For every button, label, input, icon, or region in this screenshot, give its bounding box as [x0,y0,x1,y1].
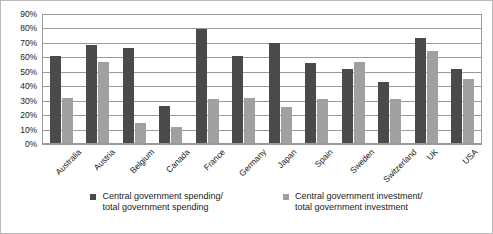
bar [159,106,170,143]
bar [244,98,255,144]
x-axis-tick-label: UK [425,147,440,162]
bar [354,62,365,143]
x-axis-label-slot: France [189,145,226,191]
bar [98,62,109,143]
bar [62,98,73,144]
bar [305,63,316,143]
bar-group [445,15,482,143]
y-axis-tick-label: 30% [20,96,37,106]
x-axis-label-slot: Canada [152,145,189,191]
bar-group [299,15,336,143]
bar [390,99,401,143]
y-axis-tick-label: 10% [20,125,37,135]
legend-label: Central government investment/ total gov… [295,191,423,213]
bar-group [262,15,299,143]
y-axis-tick-label: 90% [20,9,37,19]
bar [281,107,292,143]
bar [50,56,61,143]
bar-chart-figure: 0%10%20%30%40%50%60%70%80%90% AustraliaA… [0,0,493,234]
x-axis-label-slot: Spain [299,145,336,191]
legend-swatch-icon [90,194,96,200]
x-axis-label-slot: Belgium [115,145,152,191]
x-axis-label-slot: Germany [225,145,262,191]
bar-group [80,15,117,143]
x-axis-tick-label: USA [460,147,479,166]
x-axis-label-slot: Austria [79,145,116,191]
bar [208,99,219,143]
legend-swatch-icon [283,194,289,200]
bar [86,45,97,143]
legend-label: Central government spending/ total gover… [102,191,223,213]
bar [317,99,328,143]
y-axis-tick-label: 80% [20,23,37,33]
y-axis-tick-label: 40% [20,81,37,91]
bar-group [189,15,226,143]
legend-entry[interactable]: Central government investment/ total gov… [283,191,423,213]
x-axis-tick-label: Japan [276,147,299,170]
y-axis-tick-label: 0% [25,139,37,149]
bar [135,123,146,143]
chart-legend: Central government spending/ total gover… [1,191,492,213]
x-axis-label-slot: Japan [262,145,299,191]
bars-layer [43,15,481,143]
bar [415,38,426,143]
bar [269,43,280,143]
bar [342,69,353,143]
legend-entry[interactable]: Central government spending/ total gover… [90,191,223,213]
x-axis-label-slot: Australia [42,145,79,191]
y-axis: 0%10%20%30%40%50%60%70%80%90% [1,14,40,144]
bar-group [226,15,263,143]
bar [171,127,182,143]
bar-group [43,15,80,143]
bar [378,82,389,143]
bar [463,79,474,143]
x-axis-tick-label: Austria [92,147,117,172]
x-axis-tick-label: Spain [313,147,335,169]
bar [123,48,134,143]
x-axis-labels: AustraliaAustriaBelgiumCanadaFranceGerma… [42,145,482,191]
y-axis-tick-label: 70% [20,38,37,48]
plot-area [42,14,482,144]
y-axis-tick-label: 20% [20,110,37,120]
x-axis-label-slot: Switzerland [372,145,409,191]
bar-group [153,15,190,143]
x-axis-label-slot: USA [445,145,482,191]
bar [196,29,207,143]
bar-group [408,15,445,143]
bar [232,56,243,143]
bar-group [335,15,372,143]
x-axis-label-slot: Sweden [335,145,372,191]
y-axis-tick-label: 60% [20,52,37,62]
bar-group [372,15,409,143]
x-axis-tick-label: France [202,147,227,172]
x-axis-label-slot: UK [409,145,446,191]
bar-group [116,15,153,143]
y-axis-tick-label: 50% [20,67,37,77]
bar [451,69,462,143]
bar [427,51,438,143]
